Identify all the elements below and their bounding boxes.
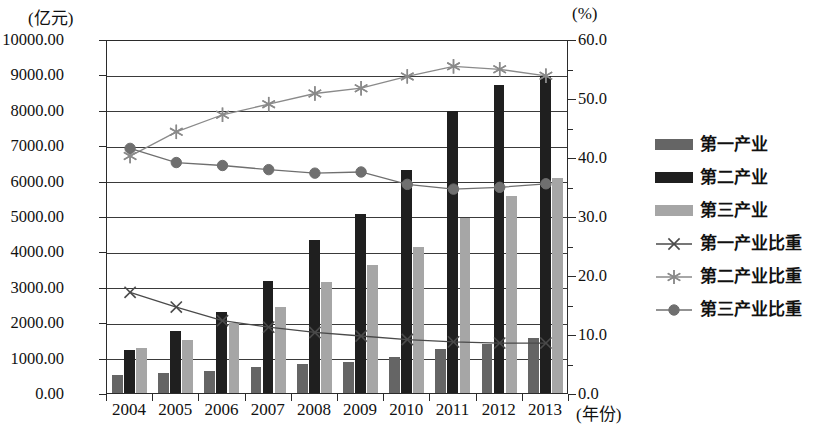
x-axis-tick-label: 2008 [291, 400, 337, 420]
bar [494, 85, 505, 393]
bar [112, 375, 123, 393]
right-axis-minor-tick-mark [568, 129, 573, 130]
bar [321, 282, 332, 393]
circle-marker [356, 167, 366, 177]
bar [413, 247, 424, 393]
circle-marker [310, 168, 320, 178]
legend-item-label: 第二产业比重 [700, 268, 802, 285]
bar [158, 373, 169, 393]
x-marker [171, 301, 182, 312]
line-path [130, 148, 546, 189]
left-axis-tick-label: 1000.00 [10, 349, 64, 369]
x-axis-tick-label: 2004 [106, 400, 152, 420]
bar [540, 76, 551, 393]
legend-item[interactable]: 第一产业比重 [655, 227, 820, 260]
bar-swatch-icon [655, 139, 693, 150]
asterisk-marker [493, 62, 505, 76]
x-axis-tick-label: 2011 [429, 400, 475, 420]
left-axis-tick-label: 2000.00 [10, 313, 64, 333]
bar [170, 331, 181, 393]
legend-item-label: 第二产业 [700, 169, 768, 186]
left-axis-tick-label: 6000.00 [10, 172, 64, 192]
line-path [130, 292, 546, 343]
bar [124, 350, 135, 393]
bar [136, 348, 147, 393]
asterisk-marker [447, 59, 459, 73]
bar-swatch-icon [655, 172, 693, 183]
x-axis-tick-label: 2007 [245, 400, 291, 420]
right-axis-tick-mark [568, 394, 576, 395]
bar [182, 340, 193, 393]
legend-item[interactable]: 第三产业 [655, 194, 820, 227]
right-axis-tick-mark [568, 40, 576, 41]
legend-item-label: 第三产业 [700, 202, 768, 219]
bar [263, 281, 274, 393]
x-axis-tick-label: 2006 [198, 400, 244, 420]
right-axis-minor-tick-mark [568, 188, 573, 189]
left-axis-tick-label: 4000.00 [10, 242, 64, 262]
bar [506, 196, 517, 393]
bar-swatch-icon [655, 205, 693, 216]
right-axis-tick-mark [568, 335, 576, 336]
left-axis-tick-label: 7000.00 [10, 136, 64, 156]
x-axis-caption: (年份) [576, 400, 621, 425]
asterisk-marker-icon [655, 270, 693, 284]
legend-item-label: 第三产业比重 [700, 301, 802, 318]
bar [309, 240, 320, 393]
circle-marker [171, 157, 181, 167]
x-axis-tick-label: 2012 [476, 400, 522, 420]
left-axis-tick-label: 8000.00 [10, 101, 64, 121]
bar [401, 170, 412, 393]
bar [435, 349, 446, 393]
right-axis-tick-label: 20.0 [578, 266, 607, 286]
right-axis-tick-label: 30.0 [578, 207, 607, 227]
cross-marker-icon [655, 237, 693, 251]
bar [275, 307, 286, 393]
circle-marker [125, 143, 135, 153]
bar [343, 362, 354, 394]
right-axis-minor-tick-mark [568, 247, 573, 248]
chart-legend: 第一产业第二产业第三产业第一产业比重第二产业比重第三产业比重 [655, 128, 820, 326]
asterisk-marker [170, 125, 182, 139]
left-axis-tick-label: 0.00 [35, 384, 64, 404]
chart-container: (亿元) (%) 10000.009000.008000.007000.0060… [0, 0, 822, 425]
bar [528, 338, 539, 393]
bar [204, 371, 215, 393]
right-axis-tick-label: 10.0 [578, 325, 607, 345]
plot-area [106, 40, 568, 394]
legend-item[interactable]: 第二产业 [655, 161, 820, 194]
bar [297, 364, 308, 393]
left-axis-tick-label: 5000.00 [10, 207, 64, 227]
right-axis-minor-tick-mark [568, 306, 573, 307]
circle-marker [217, 160, 227, 170]
left-axis-tick-label: 3000.00 [10, 278, 64, 298]
right-axis-tick-mark [568, 158, 576, 159]
asterisk-marker [309, 86, 321, 100]
circle-marker [669, 304, 679, 314]
right-axis-unit-label: (%) [572, 4, 597, 24]
legend-item[interactable]: 第一产业 [655, 128, 820, 161]
right-axis-tick-label: 50.0 [578, 89, 607, 109]
legend-item[interactable]: 第三产业比重 [655, 293, 820, 326]
left-axis-tick-label: 9000.00 [10, 65, 64, 85]
bar [229, 323, 240, 393]
right-axis-tick-label: 40.0 [578, 148, 607, 168]
bar [367, 265, 378, 394]
bar [216, 312, 227, 393]
x-axis-tick-mark [568, 394, 569, 401]
right-axis-tick-mark [568, 217, 576, 218]
bar [251, 367, 262, 393]
gridline [107, 76, 567, 77]
right-axis-tick-label: 60.0 [578, 30, 607, 50]
x-axis-tick-label: 2009 [337, 400, 383, 420]
bar [447, 111, 458, 393]
asterisk-marker [262, 97, 274, 111]
legend-item-label: 第一产业比重 [700, 235, 802, 252]
legend-item[interactable]: 第二产业比重 [655, 260, 820, 293]
right-axis-minor-tick-mark [568, 365, 573, 366]
bar [460, 218, 471, 393]
bar [389, 357, 400, 393]
right-axis-tick-mark [568, 99, 576, 100]
left-axis-unit-label: (亿元) [28, 4, 73, 29]
bar [552, 178, 563, 393]
